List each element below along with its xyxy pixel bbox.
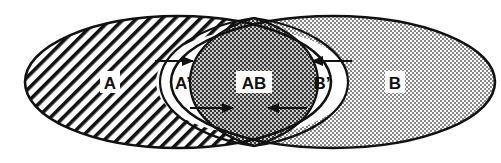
label-a-prime: A’: [175, 74, 191, 93]
label-a: A: [104, 74, 116, 93]
venn-diagram: A A’ AB B’ B: [0, 0, 501, 163]
label-b-prime: B’: [314, 74, 331, 93]
label-ab: AB: [242, 74, 267, 93]
venn-diagram-svg: A A’ AB B’ B: [0, 0, 501, 163]
label-b: B: [389, 74, 401, 93]
